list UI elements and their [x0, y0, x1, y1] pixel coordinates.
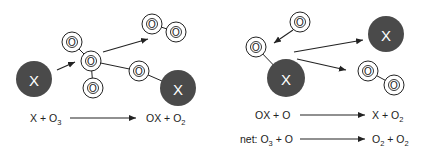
svg-text:O: O [148, 19, 156, 30]
oxygen-atom: O [384, 75, 404, 95]
reaction-arrow [294, 40, 363, 52]
left-panel: X O O O O O O X [16, 14, 196, 127]
svg-text:OX + O: OX + O [255, 109, 290, 121]
equation-step-1: X + O3 OX + O2 [30, 112, 185, 127]
oxygen-atom: O [142, 14, 162, 34]
svg-text:O: O [296, 17, 304, 28]
reaction-arrow [103, 39, 148, 52]
svg-text:O: O [390, 80, 398, 91]
svg-text:O: O [135, 66, 143, 77]
svg-text:O: O [87, 56, 95, 67]
oxygen-atom: O [166, 22, 186, 42]
svg-text:X: X [281, 71, 291, 88]
svg-text:O: O [172, 27, 180, 38]
catalyst-atom: X [160, 70, 196, 106]
svg-text:X + O2: X + O2 [372, 109, 403, 124]
svg-text:X: X [29, 72, 39, 89]
reaction-arrow [297, 59, 346, 70]
svg-text:O: O [89, 83, 97, 94]
equation-net: net: O3 + O O2 + O2 [240, 133, 409, 148]
oxygen-atom: O [358, 61, 378, 81]
catalyst-atom: X [267, 59, 305, 97]
oxygen-atom: O [290, 12, 310, 32]
ozone-cycle-diagram: X O O O O O O X [0, 0, 428, 155]
svg-text:X: X [173, 81, 183, 98]
right-panel: O O X X O O OX + O X + O2 [240, 12, 409, 148]
svg-text:OX + O2: OX + O2 [146, 112, 185, 127]
svg-text:X + O3: X + O3 [30, 112, 61, 127]
svg-text:X: X [381, 27, 391, 44]
svg-text:O: O [68, 37, 76, 48]
oxygen-atom: O [81, 51, 101, 71]
catalyst-atom: X [16, 61, 52, 97]
svg-text:O: O [364, 66, 372, 77]
oxygen-atom: O [62, 32, 82, 52]
oxygen-atom: O [83, 78, 103, 98]
equation-step-2: OX + O X + O2 [255, 109, 403, 124]
catalyst-atom: X [368, 16, 404, 52]
reaction-arrow [274, 30, 293, 43]
oxygen-atom: O [246, 37, 266, 57]
svg-text:net: O3 + O: net: O3 + O [240, 133, 293, 148]
oxygen-atom: O [129, 61, 149, 81]
svg-text:O: O [252, 42, 260, 53]
svg-text:O2 + O2: O2 + O2 [372, 133, 409, 148]
reaction-arrow [57, 62, 75, 70]
